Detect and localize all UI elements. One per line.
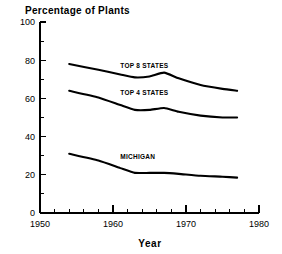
- x-axis-title: Year: [138, 238, 162, 249]
- y-tick-label: 80: [25, 56, 35, 66]
- y-axis: 020406080100: [20, 17, 46, 218]
- y-tick-label: 0: [30, 208, 35, 218]
- x-tick-label: 1950: [30, 219, 50, 229]
- series-label-2: MICHIGAN: [120, 153, 155, 160]
- x-tick-label: 1970: [176, 219, 196, 229]
- x-tick-label: 1960: [103, 219, 123, 229]
- x-axis-minor-ticks: [55, 209, 245, 214]
- y-tick-label: 60: [25, 94, 35, 104]
- chart-series-lines: [69, 64, 237, 178]
- series-label-0: TOP 8 STATES: [120, 62, 168, 69]
- chart-canvas: Percentage of Plants 020406080100 195019…: [0, 0, 282, 254]
- x-axis-tick-labels: 1950196019701980: [30, 219, 269, 229]
- chart-figure: Percentage of Plants 020406080100 195019…: [0, 0, 282, 254]
- y-tick-label: 40: [25, 132, 35, 142]
- x-axis: 1950196019701980: [30, 205, 269, 229]
- x-tick-label: 1980: [249, 219, 269, 229]
- y-tick-label: 100: [20, 17, 35, 27]
- y-axis-tick-labels: 020406080100: [20, 17, 35, 218]
- chart-title: Percentage of Plants: [25, 5, 130, 16]
- y-tick-label: 20: [25, 170, 35, 180]
- x-axis-major-ticks: [40, 205, 259, 213]
- series-label-1: TOP 4 STATES: [120, 89, 168, 96]
